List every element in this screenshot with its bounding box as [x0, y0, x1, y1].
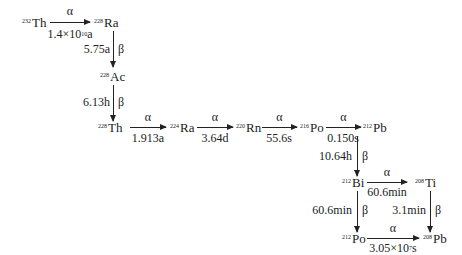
arrow-po216-pb212 [326, 127, 361, 128]
decay-type: β [118, 43, 124, 55]
arrow-ra228-ac228 [113, 31, 114, 67]
decay-type: α [326, 111, 361, 123]
half-life: 1.4×1010a [38, 28, 102, 40]
half-life: 10.64h [312, 150, 352, 162]
mass-number: 232 [22, 18, 31, 24]
half-life: 1.913a [124, 132, 172, 144]
nuclide-tl208: 208Ti [415, 176, 436, 189]
half-life: 60.6min [306, 204, 352, 216]
arrow-th228-ra224 [130, 127, 166, 128]
nuclide-pb208: 208Pb [423, 232, 447, 245]
nuclide-ra224: 224Ra [170, 121, 194, 134]
arrow-ra224-rn220 [197, 127, 233, 128]
half-life: 55.6s [257, 132, 301, 144]
nuclide-po212: 212Po [342, 232, 366, 245]
half-life: 3.1min [388, 204, 426, 216]
half-life: 3.64d [193, 132, 237, 144]
decay-type: α [367, 166, 407, 178]
arrow-rn220-po216 [262, 127, 297, 128]
half-life: 0.150s [320, 132, 366, 144]
nuclide-th228: 228Th [98, 121, 122, 134]
arrow-th232-ra228 [50, 22, 90, 23]
arrow-bi212-po212 [357, 191, 358, 232]
decay-type: β [362, 204, 368, 216]
arrow-pb212-bi212 [357, 136, 358, 176]
decay-type: β [362, 150, 368, 162]
arrow-ac228-th228 [113, 85, 114, 121]
half-life: 60.6min [365, 186, 409, 198]
half-life: 3.05×107s [364, 242, 422, 254]
decay-type: β [118, 96, 124, 108]
nuclide-bi212: 212Bi [342, 176, 364, 189]
nuclide-pb212: 212Pb [363, 121, 387, 134]
arrow-po212-pb208 [367, 238, 419, 239]
nuclide-ac228: 228Ac [100, 70, 125, 83]
nuclide-ra228: 228Ra [94, 16, 118, 29]
decay-type: α [130, 111, 166, 123]
half-life: 6.13h [76, 96, 110, 108]
half-life: 5.75a [76, 43, 110, 55]
decay-type: α [367, 222, 419, 234]
decay-type: α [50, 5, 90, 17]
arrow-tl208-pb208 [430, 191, 431, 232]
decay-type: α [197, 111, 233, 123]
arrow-bi212-tl208 [367, 182, 407, 183]
decay-type: β [435, 204, 441, 216]
decay-type: α [262, 111, 297, 123]
